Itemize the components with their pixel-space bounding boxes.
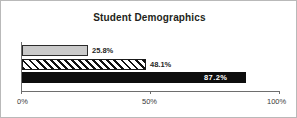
x-tick-mark-100 [279, 91, 280, 94]
chart-title: Student Demographics [1, 12, 297, 23]
x-tick-label-50: 50% [142, 97, 157, 106]
x-tick-label-0: 0% [17, 97, 28, 106]
x-tick-mark-50 [150, 91, 151, 94]
bar-value-label-1: 25.8% [92, 46, 113, 55]
x-tick-label-100: 100% [267, 97, 286, 106]
x-tick-mark-0 [21, 91, 22, 94]
bar-series-2[interactable] [22, 59, 146, 70]
bar-value-label-2: 48.1% [150, 60, 171, 69]
plot-area: 25.8% 48.1% 87.2% [22, 42, 279, 91]
bar-series-1[interactable] [22, 45, 88, 56]
bar-value-label-3: 87.2% [204, 73, 227, 82]
chart-container: Student Demographics 25.8% 48.1% 87.2% 0… [0, 0, 297, 118]
